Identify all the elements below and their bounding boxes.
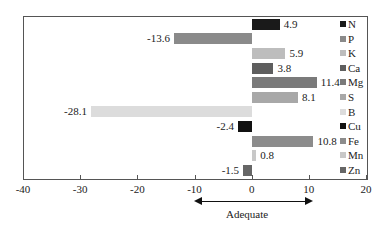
x-tick-label: 0	[249, 183, 255, 195]
x-tick-label: -40	[16, 183, 31, 195]
bar-cu	[238, 121, 252, 132]
x-tick-label: -20	[130, 183, 145, 195]
adequate-range-arrow	[200, 201, 306, 202]
legend-item-k: K	[340, 47, 356, 59]
x-tick	[309, 175, 310, 179]
bar-n	[252, 19, 280, 30]
legend-swatch-icon	[340, 65, 346, 71]
bar-s	[252, 92, 298, 103]
legend-item-b: B	[340, 106, 355, 118]
arrow-right-icon	[305, 197, 313, 205]
legend-item-fe: Fe	[340, 135, 359, 147]
x-tick	[252, 175, 253, 179]
legend-swatch-icon	[340, 94, 346, 100]
x-tick-label: -30	[73, 183, 88, 195]
x-tick	[137, 175, 138, 179]
x-tick	[23, 175, 24, 179]
x-tick	[366, 175, 367, 179]
legend-label: B	[348, 106, 355, 118]
legend-swatch-icon	[340, 152, 346, 158]
legend-item-ca: Ca	[340, 62, 360, 74]
value-label-s: 8.1	[302, 92, 316, 103]
bar-ca	[252, 63, 274, 74]
legend-label: K	[348, 47, 356, 59]
legend-swatch-icon	[340, 36, 346, 42]
legend-label: P	[348, 33, 354, 45]
legend-swatch-icon	[340, 123, 346, 129]
value-label-mn: 0.8	[260, 150, 274, 161]
legend-item-p: P	[340, 33, 354, 45]
legend-item-s: S	[340, 91, 354, 103]
adequate-label: Adequate	[226, 208, 268, 220]
legend-label: Zn	[348, 164, 360, 176]
bar-k	[252, 48, 286, 59]
legend-item-n: N	[340, 18, 356, 30]
value-label-n: 4.9	[284, 19, 298, 30]
value-label-mg: 11.4	[321, 77, 340, 88]
bar-fe	[252, 136, 314, 147]
x-tick	[195, 175, 196, 179]
x-tick-label: -10	[187, 183, 202, 195]
legend-item-zn: Zn	[340, 164, 360, 176]
nutrient-deviation-bar-chart: 4.9-13.65.93.811.48.1-28.1-2.410.80.8-1.…	[0, 0, 387, 232]
legend-swatch-icon	[340, 79, 346, 85]
value-label-cu: -2.4	[217, 121, 234, 132]
legend-label: Mn	[348, 149, 363, 161]
legend-item-mn: Mn	[340, 149, 363, 161]
bar-b	[91, 106, 252, 117]
x-tick-label: 20	[361, 183, 372, 195]
value-label-fe: 10.8	[317, 136, 336, 147]
value-label-zn: -1.5	[222, 165, 239, 176]
legend-swatch-icon	[340, 50, 346, 56]
legend-label: Ca	[348, 62, 360, 74]
legend-item-cu: Cu	[340, 120, 361, 132]
bar-p	[174, 33, 252, 44]
value-label-k: 5.9	[289, 48, 303, 59]
value-label-p: -13.6	[147, 33, 170, 44]
legend-label: Mg	[348, 76, 363, 88]
legend-swatch-icon	[340, 21, 346, 27]
legend-label: Cu	[348, 120, 361, 132]
value-label-ca: 3.8	[277, 63, 291, 74]
bar-mn	[252, 150, 257, 161]
x-tick-label: 10	[303, 183, 314, 195]
legend-swatch-icon	[340, 138, 346, 144]
legend-item-mg: Mg	[340, 76, 363, 88]
value-label-b: -28.1	[64, 106, 87, 117]
legend-label: S	[348, 91, 354, 103]
legend-label: N	[348, 18, 356, 30]
legend-label: Fe	[348, 135, 359, 147]
bar-mg	[252, 77, 317, 88]
x-tick	[80, 175, 81, 179]
legend-swatch-icon	[340, 167, 346, 173]
bar-zn	[243, 165, 252, 176]
legend-swatch-icon	[340, 109, 346, 115]
